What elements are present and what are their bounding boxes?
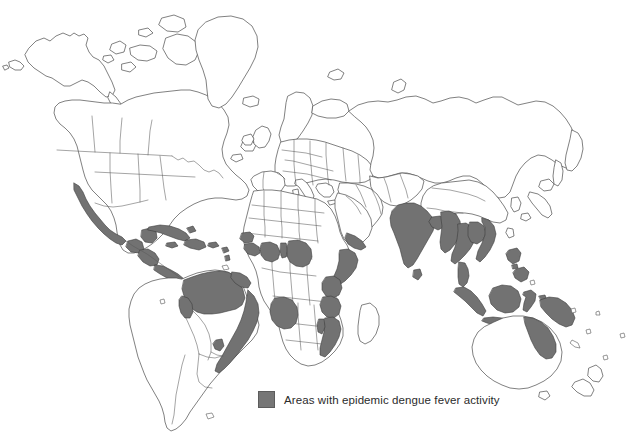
land-pacific-islet-4 xyxy=(603,355,608,360)
world-map-figure xyxy=(0,0,634,447)
land-pacific-islet-1 xyxy=(571,308,576,313)
land-galapagos xyxy=(160,299,165,304)
world-map-graphic xyxy=(0,0,634,447)
highlight-kenya xyxy=(322,276,342,298)
map-legend: Areas with epidemic dengue fever activit… xyxy=(258,391,500,408)
dengue-activity-swatch xyxy=(258,391,275,408)
land-iceland xyxy=(243,96,259,107)
highlight-philippines-islet xyxy=(512,264,518,269)
land-palau xyxy=(530,280,535,285)
highlight-lesser-antilles-2 xyxy=(225,255,230,261)
land-pacific-islet-3 xyxy=(620,333,625,338)
legend-label: Areas with epidemic dengue fever activit… xyxy=(284,393,500,407)
land-pacific-islet-2 xyxy=(586,329,591,334)
map-page: Areas with epidemic dengue fever activit… xyxy=(0,0,634,447)
land-pacific-islet-5 xyxy=(596,311,600,315)
